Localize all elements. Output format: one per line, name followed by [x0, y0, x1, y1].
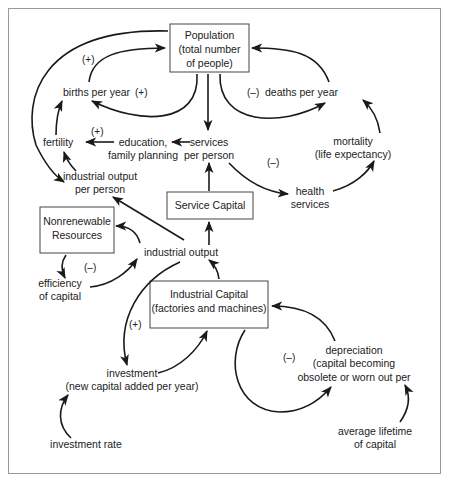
births-per-year-label: births per year — [63, 86, 131, 98]
svg-text:of capital: of capital — [354, 438, 396, 450]
service-capital-box: Service Capital — [167, 192, 253, 219]
investment-label: investment — [107, 367, 158, 379]
industrial-output-per-person-label: industrial output — [63, 170, 137, 182]
health-services-label: health — [296, 185, 325, 197]
svg-text:Service Capital: Service Capital — [175, 199, 246, 211]
depreciation-label: depreciation — [325, 344, 382, 356]
svg-text:Industrial Capital: Industrial Capital — [170, 288, 248, 300]
svg-text:of people): of people) — [186, 57, 233, 69]
causal-loop-diagram: Population (total number of people) Serv… — [0, 0, 449, 483]
sign-health-loop: (–) — [267, 157, 279, 168]
svg-text:(capital becoming: (capital becoming — [313, 357, 395, 369]
education-label: education, — [119, 136, 167, 148]
svg-text:obsolete or worn out per: obsolete or worn out per — [297, 371, 411, 383]
investment-rate-label: investment rate — [50, 438, 122, 450]
industrial-output-label: industrial output — [144, 246, 218, 258]
sign-investment-loop: (+) — [129, 319, 142, 330]
nonrenewable-resources-box: Nonrenewable Resources — [40, 207, 114, 253]
fertility-label: fertility — [43, 136, 74, 148]
efficiency-of-capital-label: efficiency — [38, 277, 82, 289]
sign-births-loop-inner: (+) — [135, 87, 148, 98]
industrial-capital-box: Industrial Capital (factories and machin… — [150, 281, 268, 328]
svg-text:(total number: (total number — [179, 43, 241, 55]
sign-depreciation-loop: (–) — [283, 352, 295, 363]
svg-text:Resources: Resources — [52, 229, 102, 241]
svg-text:(new capital added per year): (new capital added per year) — [65, 380, 198, 392]
sign-education-fertility: (+) — [91, 126, 104, 137]
population-box: Population (total number of people) — [170, 24, 249, 72]
svg-text:(factories and machines): (factories and machines) — [152, 302, 267, 314]
svg-text:family planning: family planning — [108, 149, 178, 161]
deaths-per-year-label: deaths per year — [265, 86, 338, 98]
svg-text:of capital: of capital — [39, 290, 81, 302]
svg-text:Nonrenewable: Nonrenewable — [43, 215, 111, 227]
sign-deaths-loop: (–) — [247, 87, 259, 98]
svg-text:(life expectancy): (life expectancy) — [315, 148, 391, 160]
sign-births-loop-top: (+) — [82, 54, 95, 65]
svg-text:services: services — [291, 198, 330, 210]
svg-text:per person: per person — [184, 149, 234, 161]
mortality-label: mortality — [333, 135, 373, 147]
services-per-person-label: services — [190, 136, 229, 148]
average-lifetime-label: average lifetime — [338, 425, 412, 437]
population-title: Population — [185, 29, 235, 41]
svg-text:per person: per person — [75, 183, 125, 195]
sign-efficiency-loop: (–) — [84, 262, 96, 273]
